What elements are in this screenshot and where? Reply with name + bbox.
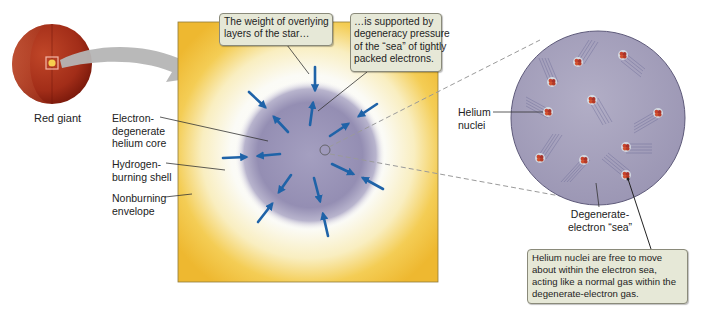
callout-line: packed electrons. (354, 53, 438, 65)
label-line: Hydrogen- (112, 158, 172, 171)
callout-line: Helium nuclei are free to move (532, 252, 683, 264)
callout-line: degeneracy pressure (354, 28, 438, 40)
label-line: Helium (458, 106, 491, 119)
leader-dot (627, 178, 630, 181)
weight-callout: The weight of overlying layers of the st… (219, 13, 333, 46)
label-line: electron “sea” (563, 221, 637, 234)
helium-nuclei-label: Helium nuclei (458, 106, 491, 131)
label-line: Nonburning (112, 192, 166, 205)
label-line: Degenerate- (563, 208, 637, 221)
callout-line: acting like a normal gas within the (532, 276, 683, 288)
support-callout: …is supported by degeneracy pressure of … (350, 13, 442, 72)
hydrogen-burning-shell-label: Hydrogen- burning shell (112, 158, 172, 183)
label-line: envelope (112, 205, 166, 218)
nonburning-envelope-label: Nonburning envelope (112, 192, 166, 217)
label-line: burning shell (112, 171, 172, 184)
red-giant-label: Red giant (34, 112, 81, 125)
label-line: degenerate (112, 125, 166, 138)
callout-line: degenerate-electron gas. (532, 288, 683, 300)
callout-line: of the “sea” of tightly (354, 41, 438, 53)
label-line: helium core (112, 137, 166, 150)
electron-sea-zoom (511, 31, 685, 205)
callout-line: layers of the star… (224, 28, 328, 40)
label-line: nuclei (458, 119, 491, 132)
electron-degenerate-core-label: Electron- degenerate helium core (112, 112, 166, 150)
callout-line: about within the electron sea, (532, 264, 683, 276)
degenerate-sea-label: Degenerate- electron “sea” (563, 208, 637, 233)
label-line: Electron- (112, 112, 166, 125)
nuclei-free-callout: Helium nuclei are free to move about wit… (527, 249, 688, 304)
callout-line: The weight of overlying (224, 16, 328, 28)
callout-line: …is supported by (354, 16, 438, 28)
